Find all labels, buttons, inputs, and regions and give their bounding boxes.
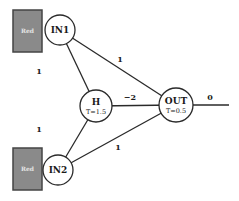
node-threshold: T=0.5	[166, 107, 186, 115]
edge-weight-label: −2	[124, 92, 136, 102]
node-label: IN1	[51, 25, 70, 35]
sensor-bottom: Red	[13, 148, 42, 190]
edge-weight-label: 1	[36, 66, 42, 76]
node-label: IN2	[49, 165, 68, 175]
edge-in2-out	[58, 105, 176, 170]
output-weight-label: 0	[207, 92, 213, 102]
node-label: OUT	[165, 96, 188, 106]
neural-network-diagram: 1111−2 0 RedRed IN1IN2HT=1.5OUTT=0.5	[0, 0, 239, 201]
edge-weight-label: 1	[117, 54, 123, 64]
node-in1: IN1	[45, 15, 75, 45]
node-out: OUTT=0.5	[159, 88, 193, 122]
sensor-label: Red	[21, 165, 35, 172]
edge-weight-label: 1	[36, 124, 42, 134]
nodes: IN1IN2HT=1.5OUTT=0.5	[43, 15, 193, 185]
node-h: HT=1.5	[80, 90, 112, 122]
output-connection: 0	[193, 92, 229, 105]
edge-weight-label: 1	[115, 142, 121, 152]
sensor-label: Red	[21, 27, 35, 34]
node-label: H	[92, 97, 101, 107]
sensor-top: Red	[13, 10, 42, 52]
node-threshold: T=1.5	[86, 108, 106, 116]
node-in2: IN2	[43, 155, 73, 185]
sensors: RedRed	[13, 10, 42, 190]
